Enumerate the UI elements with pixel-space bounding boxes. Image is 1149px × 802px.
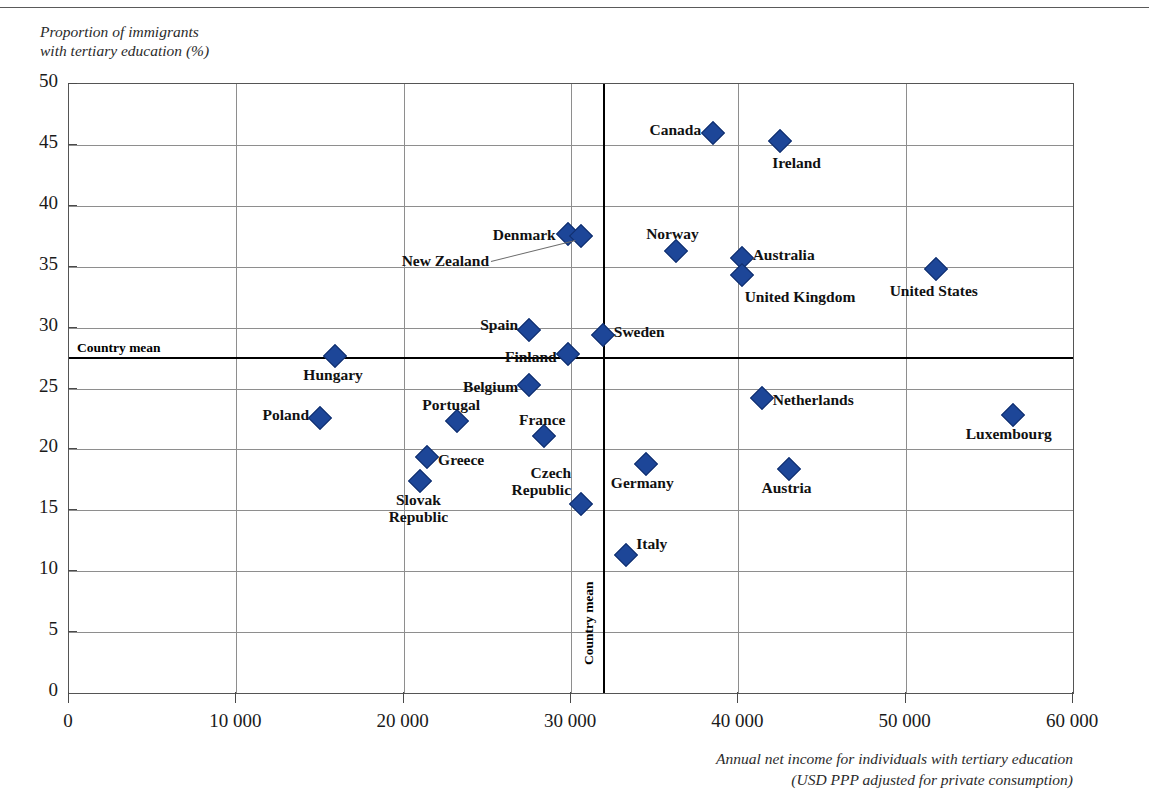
x-tick-mark xyxy=(905,692,906,703)
y-tick-mark xyxy=(68,83,77,84)
data-point-label: New Zealand xyxy=(402,252,489,269)
y-tick-label: 30 xyxy=(12,314,58,336)
data-point-label: Canada xyxy=(650,121,702,138)
data-point-marker[interactable] xyxy=(634,452,658,476)
country-mean-horizontal-label: Country mean xyxy=(77,340,161,356)
data-point-label: Denmark xyxy=(493,226,556,243)
y-tick-mark xyxy=(68,327,77,328)
y-tick-label: 50 xyxy=(12,70,58,92)
data-point-marker[interactable] xyxy=(517,318,541,342)
y-tick-label: 5 xyxy=(12,618,58,640)
gridline-vertical xyxy=(236,84,237,693)
x-tick-mark xyxy=(1072,692,1073,703)
y-tick-label: 35 xyxy=(12,253,58,275)
y-tick-label: 45 xyxy=(12,131,58,153)
data-point-label: United Kingdom xyxy=(745,288,856,305)
x-tick-label: 30 000 xyxy=(510,710,630,732)
data-point-marker[interactable] xyxy=(924,257,948,281)
y-tick-mark xyxy=(68,144,77,145)
y-tick-label: 0 xyxy=(12,679,58,701)
y-tick-label: 15 xyxy=(12,496,58,518)
data-point-marker[interactable] xyxy=(768,129,792,153)
data-point-label: Poland xyxy=(262,406,309,423)
data-point-marker[interactable] xyxy=(323,344,347,368)
data-point-label: France xyxy=(452,411,632,428)
chart-page: Proportion of immigrants with tertiary e… xyxy=(0,0,1149,802)
data-point-label: Ireland xyxy=(772,154,821,171)
gridline-vertical xyxy=(404,84,405,693)
x-tick-label: 0 xyxy=(8,710,128,732)
x-tick-mark xyxy=(737,692,738,703)
data-point-marker[interactable] xyxy=(701,121,725,145)
data-point-marker[interactable] xyxy=(1001,403,1025,427)
y-tick-mark xyxy=(68,570,77,571)
y-tick-label: 10 xyxy=(12,557,58,579)
data-point-label: Luxembourg xyxy=(919,425,1099,442)
data-point-marker[interactable] xyxy=(777,457,801,481)
data-point-marker[interactable] xyxy=(591,323,615,347)
data-point-marker[interactable] xyxy=(569,492,593,516)
y-tick-mark xyxy=(68,631,77,632)
y-tick-mark xyxy=(68,266,77,267)
y-tick-label: 20 xyxy=(12,435,58,457)
mean-line-vertical xyxy=(603,84,605,693)
gridline-vertical xyxy=(738,84,739,693)
data-point-label: Belgium xyxy=(463,378,518,395)
x-tick-mark xyxy=(235,692,236,703)
y-tick-label: 25 xyxy=(12,375,58,397)
data-point-label: Slovak Republic xyxy=(328,491,508,525)
plot-area: Country mean Country mean CanadaIrelandD… xyxy=(68,83,1074,694)
x-tick-mark xyxy=(403,692,404,703)
data-point-label: Sweden xyxy=(614,323,665,340)
data-point-marker[interactable] xyxy=(517,373,541,397)
data-point-label: Australia xyxy=(753,246,815,263)
data-point-marker[interactable] xyxy=(415,445,439,469)
top-divider xyxy=(0,7,1149,8)
x-tick-mark xyxy=(68,692,69,703)
gridline-vertical xyxy=(906,84,907,693)
label-leader-line xyxy=(491,240,575,262)
data-point-marker[interactable] xyxy=(556,342,580,366)
gridline-vertical xyxy=(571,84,572,693)
y-tick-mark xyxy=(68,509,77,510)
data-point-label: Hungary xyxy=(243,366,423,383)
data-point-marker[interactable] xyxy=(750,386,774,410)
y-tick-mark xyxy=(68,388,77,389)
x-tick-label: 60 000 xyxy=(1012,710,1132,732)
country-mean-vertical-label: Country mean xyxy=(581,581,597,665)
data-point-marker[interactable] xyxy=(614,543,638,567)
data-point-label: Greece xyxy=(438,451,484,468)
data-point-label: Finland xyxy=(505,348,557,365)
data-point-label: Italy xyxy=(636,535,667,552)
x-tick-label: 50 000 xyxy=(845,710,965,732)
y-axis-caption: Proportion of immigrants with tertiary e… xyxy=(40,22,209,60)
x-tick-label: 10 000 xyxy=(175,710,295,732)
x-tick-label: 20 000 xyxy=(343,710,463,732)
data-point-label: Spain xyxy=(480,316,518,333)
data-point-marker[interactable] xyxy=(664,239,688,263)
data-point-label: Norway xyxy=(582,225,762,242)
x-tick-label: 40 000 xyxy=(677,710,797,732)
y-tick-mark xyxy=(68,448,77,449)
data-point-label: Czech Republic xyxy=(512,464,571,498)
data-point-label: Austria xyxy=(697,479,877,496)
data-point-label: United States xyxy=(844,282,1024,299)
x-tick-mark xyxy=(570,692,571,703)
data-point-marker[interactable] xyxy=(408,469,432,493)
data-point-marker[interactable] xyxy=(308,406,332,430)
data-point-label: Netherlands xyxy=(773,391,854,408)
y-tick-label: 40 xyxy=(12,192,58,214)
x-axis-caption: Annual net income for individuals with t… xyxy=(716,748,1073,790)
y-tick-mark xyxy=(68,205,77,206)
